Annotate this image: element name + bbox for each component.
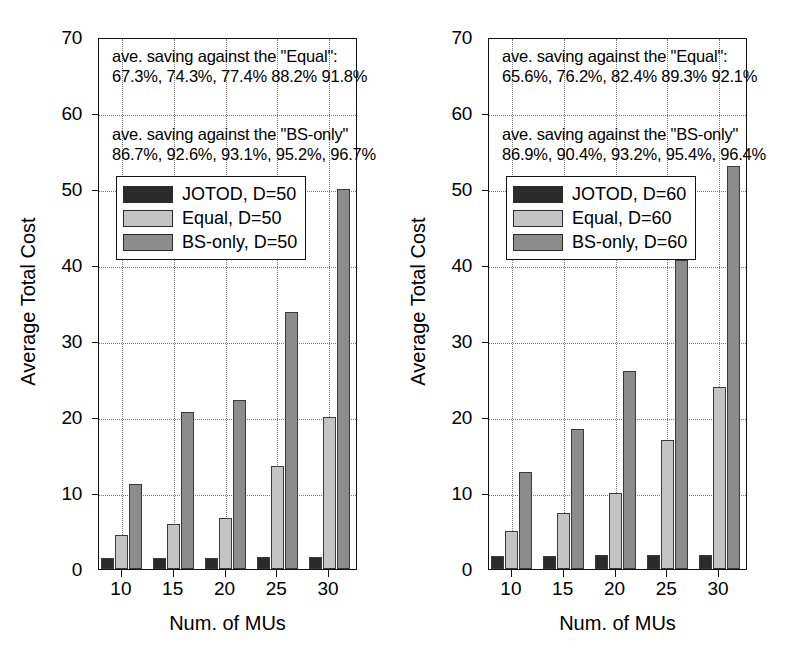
x-tick-mark: [511, 570, 512, 577]
bar: [675, 260, 688, 569]
y-axis-title: Average Total Cost: [17, 122, 40, 482]
bar: [337, 189, 350, 569]
gridline-horizontal: [489, 267, 746, 268]
bar: [323, 417, 336, 569]
x-tick-label: 10: [486, 579, 536, 599]
legend-swatch-icon: [123, 234, 173, 251]
figure-two-bar-charts: Average Total Cost 010203040506070 10152…: [0, 0, 794, 666]
y-tick-label: 20: [410, 408, 472, 427]
bar: [257, 557, 270, 569]
bar: [571, 429, 584, 569]
bar: [505, 531, 518, 569]
chart-panel-left: Average Total Cost 010203040506070 10152…: [0, 0, 397, 666]
y-tick-label: 0: [410, 560, 472, 579]
legend-item: Equal, D=50: [123, 206, 297, 230]
plot-area: [98, 38, 357, 570]
x-tick-label: 25: [251, 579, 301, 599]
x-tick-mark: [615, 570, 616, 577]
legend: JOTOD, D=60 Equal, D=60 BS-only, D=60: [506, 176, 696, 260]
y-tick-label: 60: [410, 104, 472, 123]
x-tick-label: 25: [641, 579, 691, 599]
y-tick-label: 60: [20, 104, 82, 123]
x-tick-mark: [173, 570, 174, 577]
y-tick-label: 40: [20, 256, 82, 275]
x-tick-label: 30: [303, 579, 353, 599]
y-tick-label: 40: [410, 256, 472, 275]
annotation-equal-header: ave. saving against the "Equal":: [112, 46, 367, 66]
x-tick-mark: [563, 570, 564, 577]
bar: [595, 555, 608, 569]
bar: [271, 466, 284, 569]
x-tick-mark: [718, 570, 719, 577]
x-axis-title: Num. of MUs: [488, 612, 747, 635]
gridline-vertical: [616, 39, 617, 569]
legend-item: JOTOD, D=60: [513, 182, 687, 206]
gridline-vertical: [226, 39, 227, 569]
bar: [519, 472, 532, 569]
bar: [219, 518, 232, 569]
x-tick-mark: [121, 570, 122, 577]
y-tick-label: 0: [20, 560, 82, 579]
gridline-vertical: [174, 39, 175, 569]
bar: [181, 412, 194, 569]
legend-label: JOTOD, D=60: [572, 185, 686, 203]
bar: [153, 558, 166, 569]
x-tick-label: 20: [590, 579, 640, 599]
legend-swatch-icon: [123, 210, 173, 227]
annotation-equal: ave. saving against the "Equal": 65.6%, …: [502, 46, 757, 86]
x-tick-mark: [276, 570, 277, 577]
gridline-horizontal: [489, 419, 746, 420]
legend-swatch-icon: [513, 186, 563, 203]
x-tick-label: 15: [538, 579, 588, 599]
gridline-horizontal: [99, 343, 356, 344]
gridline-vertical: [564, 39, 565, 569]
annotation-bsonly-header: ave. saving against the "BS-only": [112, 124, 376, 144]
bar: [727, 166, 740, 569]
annotation-bsonly: ave. saving against the "BS-only" 86.9%,…: [502, 124, 766, 164]
legend-label: BS-only, D=60: [572, 233, 687, 251]
bar: [543, 556, 556, 569]
x-tick-mark: [225, 570, 226, 577]
gridline-horizontal: [489, 115, 746, 116]
bar: [205, 558, 218, 569]
legend-item: BS-only, D=60: [513, 230, 687, 254]
bar: [713, 387, 726, 569]
y-tick-label: 70: [410, 28, 472, 47]
y-tick-label: 20: [20, 408, 82, 427]
plot-area: [488, 38, 747, 570]
y-tick-label: 30: [410, 332, 472, 351]
legend-item: Equal, D=60: [513, 206, 687, 230]
x-tick-label: 30: [693, 579, 743, 599]
x-tick-mark: [328, 570, 329, 577]
bar: [309, 557, 322, 569]
gridline-horizontal: [99, 115, 356, 116]
gridline-horizontal: [99, 267, 356, 268]
gridline-vertical: [122, 39, 123, 569]
bar: [233, 400, 246, 569]
bar: [129, 484, 142, 569]
y-tick-label: 50: [410, 180, 472, 199]
legend-label: JOTOD, D=50: [182, 185, 296, 203]
x-axis-title: Num. of MUs: [98, 612, 357, 635]
annotation-equal-header: ave. saving against the "Equal":: [502, 46, 757, 66]
bar: [699, 555, 712, 569]
annotation-bsonly: ave. saving against the "BS-only" 86.7%,…: [112, 124, 376, 164]
chart-panel-right: Average Total Cost 010203040506070 10152…: [390, 0, 787, 666]
x-tick-label: 20: [200, 579, 250, 599]
y-tick-label: 50: [20, 180, 82, 199]
annotation-bsonly-header: ave. saving against the "BS-only": [502, 124, 766, 144]
bar: [491, 556, 504, 569]
bar: [647, 555, 660, 569]
annotation-bsonly-values: 86.7%, 92.6%, 93.1%, 95.2%, 96.7%: [112, 144, 376, 164]
annotation-equal: ave. saving against the "Equal": 67.3%, …: [112, 46, 367, 86]
annotation-equal-values: 65.6%, 76.2%, 82.4% 89.3% 92.1%: [502, 66, 757, 86]
y-tick-label: 70: [20, 28, 82, 47]
annotation-bsonly-values: 86.9%, 90.4%, 93.2%, 95.4%, 96.4%: [502, 144, 766, 164]
y-axis-title: Average Total Cost: [407, 122, 430, 482]
bar: [285, 312, 298, 569]
y-tick-label: 30: [20, 332, 82, 351]
bar: [623, 371, 636, 569]
legend-swatch-icon: [513, 210, 563, 227]
bar: [115, 535, 128, 569]
bar: [609, 493, 622, 569]
